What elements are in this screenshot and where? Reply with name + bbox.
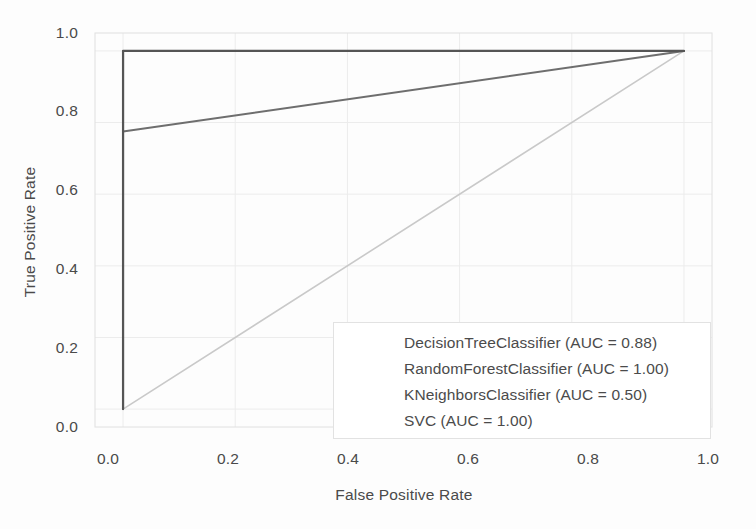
x-axis-title: False Positive Rate [335, 486, 472, 504]
y-tick-label: 0.8 [26, 102, 78, 120]
legend-label: DecisionTreeClassifier (AUC = 0.88) [404, 334, 657, 352]
y-axis-title: True Positive Rate [21, 167, 39, 298]
y-tick-label: 0.2 [26, 339, 78, 357]
x-tick-label: 0.0 [97, 450, 119, 468]
legend-label: SVC (AUC = 1.00) [404, 412, 533, 430]
legend-item[interactable]: SVC (AUC = 1.00) [342, 408, 700, 434]
legend-item[interactable]: KNeighborsClassifier (AUC = 0.50) [342, 382, 700, 408]
x-tick-label: 0.8 [577, 450, 599, 468]
legend-box: DecisionTreeClassifier (AUC = 0.88) Rand… [333, 322, 711, 439]
x-tick-label: 0.2 [217, 450, 239, 468]
y-tick-label: 0.0 [26, 418, 78, 436]
legend-item[interactable]: RandomForestClassifier (AUC = 1.00) [342, 356, 700, 382]
legend-label: RandomForestClassifier (AUC = 1.00) [404, 360, 669, 378]
x-tick-label: 0.6 [457, 450, 479, 468]
x-tick-label: 0.4 [337, 450, 359, 468]
roc-curve-figure: 1.0 0.8 0.6 0.4 0.2 0.0 0.0 0.2 0.4 0.6 … [0, 0, 756, 529]
x-tick-label: 1.0 [697, 450, 719, 468]
y-tick-label: 1.0 [26, 24, 78, 42]
legend-label: KNeighborsClassifier (AUC = 0.50) [404, 386, 647, 404]
legend-item[interactable]: DecisionTreeClassifier (AUC = 0.88) [342, 330, 700, 356]
